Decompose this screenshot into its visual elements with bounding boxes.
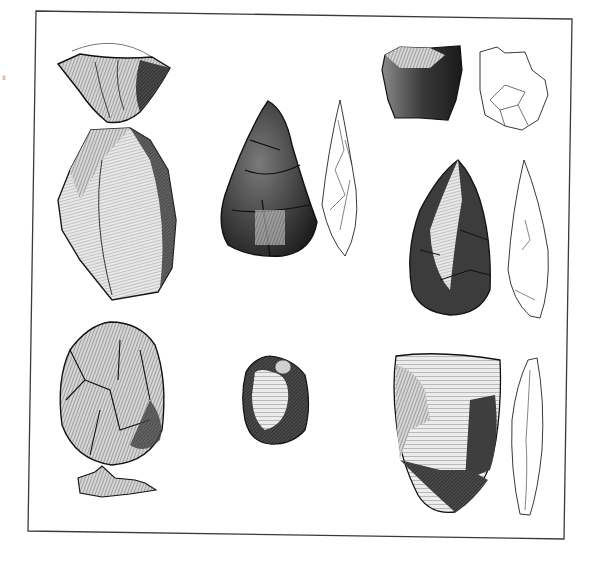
fig-bottom-center-scraper [243,356,309,444]
fig-right-handaxe [410,160,491,315]
fig-bottom-left-fragment [78,466,156,497]
fig-left-large [58,128,176,300]
stone-tools-plate [0,0,596,570]
fig-bottom-right-cleaver-profile [512,358,543,515]
fig-bottom-right-cleaver [394,354,501,513]
fig-top-right-block-outline [480,47,548,130]
fig-center-handaxe-profile [322,100,357,256]
fig-center-handaxe [221,101,317,256]
fig-bottom-left-oval [60,322,164,465]
fig-top-right-block [382,46,462,120]
fig-right-handaxe-profile [508,160,548,318]
fig-top-left-cap [58,43,170,122]
